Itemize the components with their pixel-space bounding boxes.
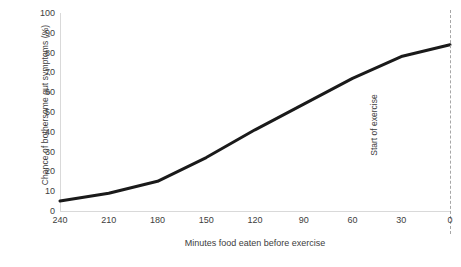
y-axis-tick-labels: 1009080706050403020100 <box>28 13 55 211</box>
series-line <box>60 13 450 211</box>
start-of-exercise-label: Start of exercise <box>369 55 379 195</box>
y-tick-label: 50 <box>28 108 55 117</box>
start-of-exercise-line <box>450 10 451 234</box>
x-tick-label: 60 <box>333 216 373 225</box>
y-tick-label: 90 <box>28 28 55 37</box>
y-tick-label: 80 <box>28 48 55 57</box>
x-axis-title: Minutes food eaten before exercise <box>60 238 450 248</box>
y-tick-label: 40 <box>28 127 55 136</box>
y-tick-label: 60 <box>28 88 55 97</box>
x-tick-label: 150 <box>186 216 226 225</box>
y-tick-label: 10 <box>28 187 55 196</box>
x-axis-line <box>60 211 450 212</box>
x-tick-label: 240 <box>40 216 80 225</box>
x-tick-label: 180 <box>138 216 178 225</box>
y-tick-label: 100 <box>28 9 55 18</box>
y-tick-label: 70 <box>28 68 55 77</box>
y-tick-label: 30 <box>28 147 55 156</box>
x-tick-label: 210 <box>89 216 129 225</box>
plot-area <box>60 13 450 211</box>
x-axis-tick-labels: 2402101801501209060300 <box>60 216 450 232</box>
line-chart: Chance of bothersome gut symptoms (%) 10… <box>0 0 461 267</box>
y-tick-label: 20 <box>28 167 55 176</box>
y-tick-label: 0 <box>28 207 55 216</box>
x-tick-label: 90 <box>284 216 324 225</box>
x-tick-label: 120 <box>235 216 275 225</box>
x-tick-label: 30 <box>381 216 421 225</box>
x-tick-label: 0 <box>430 216 461 225</box>
